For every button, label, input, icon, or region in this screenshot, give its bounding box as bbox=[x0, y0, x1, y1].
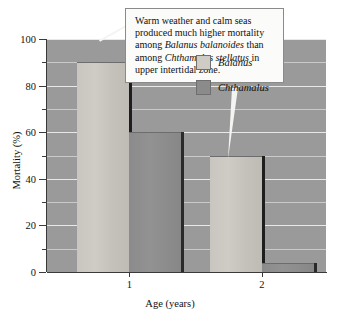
y-tick-label: 40 bbox=[26, 173, 37, 184]
x-tick-label: 1 bbox=[127, 279, 132, 290]
y-tick-label: 0 bbox=[31, 267, 36, 278]
legend-swatch-balanus bbox=[196, 55, 211, 70]
legend-item-balanus: Balanus bbox=[196, 52, 279, 73]
legend-item-chthamalus: Chthamalus bbox=[196, 77, 279, 98]
y-tick-label: 100 bbox=[20, 34, 36, 45]
y-tick-minor bbox=[42, 109, 46, 110]
x-tick bbox=[129, 272, 130, 277]
y-tick-major bbox=[39, 86, 46, 87]
y-axis-ticks: 020406080100 bbox=[0, 39, 46, 272]
callout-line-1: Warm weather and calm seas bbox=[135, 15, 275, 27]
y-tick-major bbox=[39, 179, 46, 180]
x-axis-title: Age (years) bbox=[0, 298, 340, 309]
bar-chthamalus-age-1 bbox=[129, 132, 181, 272]
bar-top-edge bbox=[210, 156, 262, 157]
bar-shadow-edge bbox=[181, 132, 184, 272]
bar-face bbox=[210, 156, 262, 273]
y-tick-label: 60 bbox=[26, 127, 37, 138]
bar-top-edge bbox=[129, 132, 181, 133]
bar-top-edge bbox=[77, 62, 129, 63]
x-axis-line bbox=[47, 272, 327, 273]
y-tick-major bbox=[39, 225, 46, 226]
bar-shadow-edge bbox=[262, 156, 265, 273]
y-tick-major bbox=[39, 132, 46, 133]
y-tick-minor bbox=[42, 249, 46, 250]
y-tick-major bbox=[39, 272, 46, 273]
bar-face bbox=[262, 263, 314, 272]
bar-balanus-age-2 bbox=[210, 156, 262, 273]
legend-swatch-chthamalus bbox=[196, 80, 211, 95]
bar-balanus-age-1 bbox=[77, 62, 129, 272]
y-tick-label: 20 bbox=[26, 220, 37, 231]
callout-line-2: produced much higher mortality bbox=[135, 27, 275, 39]
bar-face bbox=[129, 132, 181, 272]
y-axis-line bbox=[46, 39, 47, 272]
x-tick bbox=[262, 272, 263, 277]
x-tick-label: 2 bbox=[259, 279, 264, 290]
bar-top-edge bbox=[262, 263, 314, 264]
y-tick-minor bbox=[42, 202, 46, 203]
legend-label: Chthamalus bbox=[218, 82, 269, 93]
bar-face bbox=[77, 62, 129, 272]
y-axis-title: Mortality (%) bbox=[11, 106, 22, 216]
y-tick-major bbox=[39, 39, 46, 40]
chart-legend: BalanusChthamalus bbox=[196, 52, 279, 102]
legend-label: Balanus bbox=[218, 57, 252, 68]
y-tick-minor bbox=[42, 62, 46, 63]
callout-line-3: among Balanus balanoides than bbox=[135, 39, 275, 51]
bar-shadow-edge bbox=[314, 263, 317, 272]
y-tick-label: 80 bbox=[26, 80, 37, 91]
bar-chthamalus-age-2 bbox=[262, 263, 314, 272]
chart-figure: 020406080100 12 Mortality (%) Age (years… bbox=[0, 0, 340, 321]
y-tick-minor bbox=[42, 156, 46, 157]
